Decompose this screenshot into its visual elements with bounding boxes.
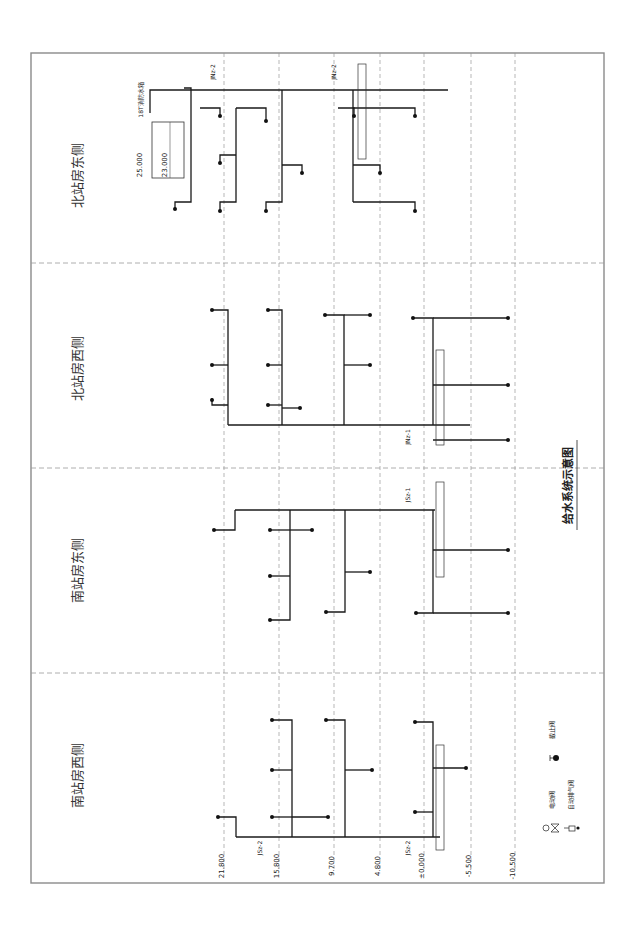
section-title-north-east: 北站房东侧 <box>70 143 85 208</box>
stop-valve-icon <box>550 755 559 761</box>
north-west-network: JNz-1 <box>210 308 510 446</box>
riser-label: JSz-2 <box>404 840 412 856</box>
section-title-north-west: 北站房西侧 <box>70 336 85 401</box>
drawing-sheet: 北站房东侧 北站房西侧 南站房东侧 南站房西侧 18T消防水箱 25.000 2… <box>0 0 637 932</box>
riser-label: JNz-2 <box>330 64 338 81</box>
riser-label: JNz-1 <box>404 429 412 446</box>
legend: 截止阀 电动阀 自动排气阀 <box>543 721 580 832</box>
south-east-network: JSz-1 <box>212 482 510 622</box>
air-release-valve-icon <box>564 826 580 831</box>
elevation-label: 4.800 <box>374 856 382 876</box>
drawing-title: 给水系统示意图 <box>561 447 575 524</box>
elevation-label: ±0.000 <box>418 853 426 879</box>
south-west-network: JSz-2 JSz-2 <box>216 718 468 856</box>
legend-label: 截止阀 <box>548 721 556 739</box>
tank-elev-water: 23.000 <box>161 153 169 178</box>
elevation-label: 9.700 <box>328 856 336 876</box>
riser-label: JSz-2 <box>256 840 264 856</box>
legend-label: 电动阀 <box>548 791 556 809</box>
elevation-label: 21.800 <box>218 854 226 879</box>
riser-label: JNz-2 <box>209 64 217 81</box>
tank-elev-top: 25.000 <box>136 153 144 178</box>
elevation-label: -5.500 <box>465 855 473 878</box>
elevation-label: -10.500 <box>509 852 517 879</box>
section-title-south-east: 南站房东侧 <box>70 538 85 603</box>
section-title-south-west: 南站房西侧 <box>70 743 85 808</box>
elevation-labels: 21.800 15.800 9.700 4.800 ±0.000 -5.500 … <box>218 852 517 879</box>
elevation-label: 15.800 <box>273 854 281 879</box>
north-east-network: 18T消防水箱 25.000 23.000 JNz-2 JNz-2 <box>136 64 448 213</box>
legend-label: 自动排气阀 <box>567 780 575 810</box>
level-lines <box>224 53 515 870</box>
tank-label: 18T消防水箱 <box>137 82 145 117</box>
drawing-frame <box>31 53 604 883</box>
water-supply-diagram: 北站房东侧 北站房西侧 南站房东侧 南站房西侧 18T消防水箱 25.000 2… <box>0 0 637 932</box>
riser-label: JSz-1 <box>404 487 412 503</box>
motorized-valve-icon <box>543 824 559 832</box>
